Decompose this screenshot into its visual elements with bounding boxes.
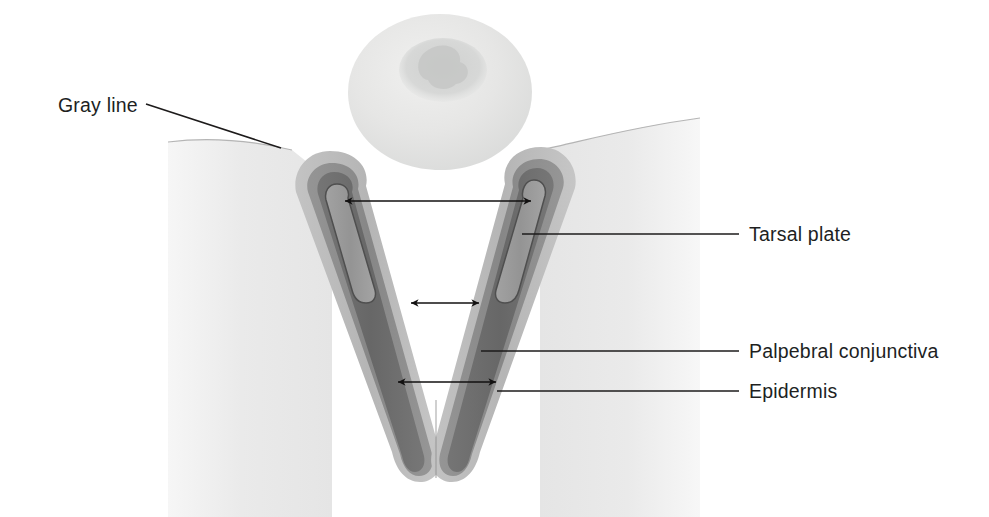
label-gray-line: Gray line: [58, 94, 138, 116]
label-tarsal-plate: Tarsal plate: [749, 223, 851, 245]
eyelid-cross-section-diagram: Gray line Tarsal plate Palpebral conjunc…: [0, 0, 989, 517]
figure-root: Gray line Tarsal plate Palpebral conjunc…: [0, 0, 989, 517]
canvas-background: [0, 0, 989, 517]
label-palpebral-conjunctiva: Palpebral conjunctiva: [749, 340, 939, 362]
label-epidermis: Epidermis: [749, 380, 838, 402]
